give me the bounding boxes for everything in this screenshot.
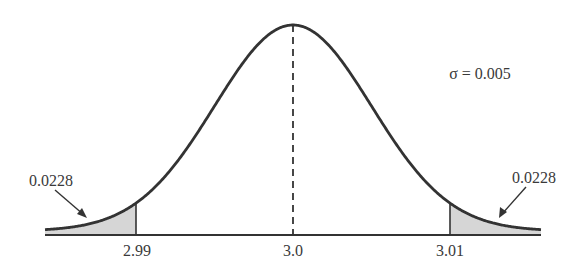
left-tail-shaded-region [45, 203, 136, 235]
normal-distribution-diagram: σ = 0.005 0.0228 0.0228 2.99 3.0 3.01 [0, 0, 583, 269]
right-tail-shaded-region [450, 203, 541, 235]
sigma-label: σ = 0.005 [449, 65, 511, 82]
left-tail-area-label: 0.0228 [29, 172, 73, 189]
right-tail-arrowhead [499, 207, 507, 218]
right-tail-area-label: 0.0228 [512, 169, 556, 186]
x-tick-2.99: 2.99 [123, 242, 151, 259]
x-tick-3.01: 3.01 [436, 242, 464, 259]
x-tick-3.0: 3.0 [283, 242, 303, 259]
right-tail-arrow [502, 187, 526, 214]
